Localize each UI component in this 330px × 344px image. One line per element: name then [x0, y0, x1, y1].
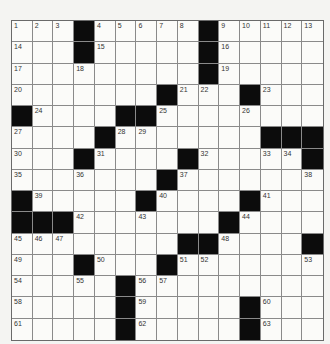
grid-cell[interactable] — [178, 319, 199, 340]
grid-cell[interactable] — [240, 149, 261, 170]
grid-cell[interactable] — [282, 297, 303, 318]
grid-cell[interactable] — [95, 106, 116, 127]
grid-cell[interactable] — [157, 42, 178, 63]
grid-cell[interactable] — [95, 64, 116, 85]
grid-cell[interactable] — [53, 170, 74, 191]
grid-cell[interactable] — [33, 319, 54, 340]
grid-cell[interactable]: 47 — [53, 234, 74, 255]
grid-cell[interactable] — [219, 276, 240, 297]
grid-cell[interactable]: 32 — [199, 149, 220, 170]
grid-cell[interactable] — [282, 106, 303, 127]
grid-cell[interactable] — [53, 149, 74, 170]
grid-cell[interactable]: 2 — [33, 21, 54, 42]
grid-cell[interactable] — [240, 276, 261, 297]
grid-cell[interactable] — [261, 276, 282, 297]
grid-cell[interactable]: 33 — [261, 149, 282, 170]
grid-cell[interactable] — [199, 127, 220, 148]
grid-cell[interactable]: 55 — [74, 276, 95, 297]
grid-cell[interactable] — [302, 297, 323, 318]
grid-cell[interactable] — [199, 276, 220, 297]
grid-cell[interactable] — [74, 191, 95, 212]
grid-cell[interactable] — [95, 191, 116, 212]
grid-cell[interactable] — [136, 85, 157, 106]
grid-cell[interactable] — [95, 319, 116, 340]
grid-cell[interactable]: 31 — [95, 149, 116, 170]
grid-cell[interactable] — [282, 42, 303, 63]
grid-cell[interactable]: 5 — [116, 21, 137, 42]
grid-cell[interactable] — [282, 255, 303, 276]
grid-cell[interactable] — [53, 85, 74, 106]
grid-cell[interactable] — [95, 170, 116, 191]
grid-cell[interactable]: 4 — [95, 21, 116, 42]
grid-cell[interactable]: 29 — [136, 127, 157, 148]
grid-cell[interactable] — [95, 85, 116, 106]
grid-cell[interactable]: 1 — [12, 21, 33, 42]
grid-cell[interactable]: 27 — [12, 127, 33, 148]
grid-cell[interactable] — [116, 191, 137, 212]
grid-cell[interactable] — [178, 191, 199, 212]
grid-cell[interactable] — [302, 42, 323, 63]
grid-cell[interactable]: 12 — [282, 21, 303, 42]
grid-cell[interactable] — [261, 234, 282, 255]
grid-cell[interactable]: 14 — [12, 42, 33, 63]
grid-cell[interactable] — [116, 85, 137, 106]
grid-cell[interactable] — [219, 149, 240, 170]
grid-cell[interactable]: 48 — [219, 234, 240, 255]
grid-cell[interactable]: 58 — [12, 297, 33, 318]
grid-cell[interactable]: 21 — [178, 85, 199, 106]
grid-cell[interactable] — [33, 127, 54, 148]
grid-cell[interactable] — [219, 127, 240, 148]
grid-cell[interactable] — [282, 170, 303, 191]
grid-cell[interactable] — [33, 297, 54, 318]
grid-cell[interactable] — [157, 127, 178, 148]
grid-cell[interactable] — [33, 255, 54, 276]
grid-cell[interactable]: 51 — [178, 255, 199, 276]
grid-cell[interactable] — [282, 319, 303, 340]
grid-cell[interactable] — [240, 170, 261, 191]
grid-cell[interactable] — [157, 319, 178, 340]
grid-cell[interactable]: 60 — [261, 297, 282, 318]
grid-cell[interactable] — [136, 255, 157, 276]
grid-cell[interactable]: 53 — [302, 255, 323, 276]
grid-cell[interactable]: 62 — [136, 319, 157, 340]
grid-cell[interactable] — [53, 297, 74, 318]
grid-cell[interactable] — [219, 170, 240, 191]
grid-cell[interactable] — [157, 297, 178, 318]
grid-cell[interactable]: 43 — [136, 212, 157, 233]
grid-cell[interactable]: 45 — [12, 234, 33, 255]
grid-cell[interactable]: 36 — [74, 170, 95, 191]
grid-cell[interactable] — [74, 106, 95, 127]
grid-cell[interactable] — [219, 255, 240, 276]
grid-cell[interactable] — [53, 127, 74, 148]
grid-cell[interactable] — [53, 64, 74, 85]
grid-cell[interactable] — [116, 234, 137, 255]
grid-cell[interactable]: 61 — [12, 319, 33, 340]
grid-cell[interactable]: 22 — [199, 85, 220, 106]
grid-cell[interactable]: 63 — [261, 319, 282, 340]
grid-cell[interactable] — [219, 191, 240, 212]
grid-cell[interactable] — [282, 85, 303, 106]
grid-cell[interactable] — [33, 85, 54, 106]
grid-cell[interactable]: 23 — [261, 85, 282, 106]
grid-cell[interactable]: 7 — [157, 21, 178, 42]
grid-cell[interactable] — [157, 212, 178, 233]
grid-cell[interactable] — [33, 276, 54, 297]
grid-cell[interactable]: 30 — [12, 149, 33, 170]
grid-cell[interactable] — [199, 297, 220, 318]
grid-cell[interactable] — [282, 234, 303, 255]
grid-cell[interactable]: 50 — [95, 255, 116, 276]
grid-cell[interactable] — [302, 276, 323, 297]
grid-cell[interactable]: 54 — [12, 276, 33, 297]
grid-cell[interactable] — [199, 170, 220, 191]
grid-cell[interactable]: 37 — [178, 170, 199, 191]
grid-cell[interactable]: 42 — [74, 212, 95, 233]
grid-cell[interactable]: 25 — [157, 106, 178, 127]
grid-cell[interactable] — [302, 85, 323, 106]
grid-cell[interactable]: 17 — [12, 64, 33, 85]
grid-cell[interactable]: 20 — [12, 85, 33, 106]
grid-cell[interactable] — [74, 85, 95, 106]
grid-cell[interactable] — [302, 319, 323, 340]
grid-cell[interactable] — [178, 297, 199, 318]
grid-cell[interactable] — [74, 297, 95, 318]
grid-cell[interactable] — [199, 106, 220, 127]
